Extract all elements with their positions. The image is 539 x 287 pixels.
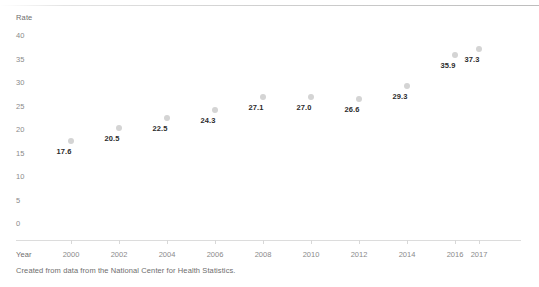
data-point-label: 22.5 xyxy=(153,124,168,133)
y-axis-tick-label: 15 xyxy=(16,149,24,158)
data-point-label: 27.0 xyxy=(297,103,312,112)
data-point-label: 37.3 xyxy=(465,55,480,64)
x-axis-tick-label: 2000 xyxy=(63,250,80,259)
data-point[interactable] xyxy=(476,46,482,52)
x-axis-tick-label: 2002 xyxy=(111,250,128,259)
y-axis-tick-label: 5 xyxy=(16,196,20,205)
x-axis-tick-label: 2012 xyxy=(351,250,368,259)
source-note: Created from data from the National Cent… xyxy=(16,266,236,275)
x-axis-tick-mark xyxy=(263,240,264,244)
x-axis-tick-label: 2010 xyxy=(303,250,320,259)
x-axis-line xyxy=(16,240,521,241)
scatter-chart: Rate Year 4035302520151050 2000200220042… xyxy=(0,0,539,287)
x-axis-tick-mark xyxy=(215,240,216,244)
x-axis-tick-label: 2016 xyxy=(447,250,464,259)
data-point[interactable] xyxy=(116,125,122,131)
y-axis-tick-label: 20 xyxy=(16,125,24,134)
data-point-label: 26.6 xyxy=(345,105,360,114)
data-point[interactable] xyxy=(452,52,458,58)
data-point[interactable] xyxy=(308,94,314,100)
data-point-label: 35.9 xyxy=(441,61,456,70)
y-axis-tick-label: 10 xyxy=(16,172,24,181)
data-point[interactable] xyxy=(212,107,218,113)
y-axis-tick-label: 35 xyxy=(16,55,24,64)
data-point-label: 24.3 xyxy=(201,116,216,125)
x-axis-tick-mark xyxy=(167,240,168,244)
x-axis-tick-mark xyxy=(119,240,120,244)
data-point-label: 29.3 xyxy=(393,92,408,101)
data-point-label: 17.6 xyxy=(57,147,72,156)
x-axis-tick-label: 2014 xyxy=(399,250,416,259)
data-point[interactable] xyxy=(404,83,410,89)
x-axis-tick-mark xyxy=(359,240,360,244)
y-axis-tick-label: 40 xyxy=(16,31,24,40)
x-axis-tick-mark xyxy=(479,240,480,244)
x-axis-tick-label: 2008 xyxy=(255,250,272,259)
data-point[interactable] xyxy=(68,138,74,144)
y-axis-title: Rate xyxy=(16,13,32,22)
data-point[interactable] xyxy=(356,96,362,102)
data-point[interactable] xyxy=(260,94,266,100)
x-axis-tick-mark xyxy=(407,240,408,244)
data-point-label: 20.5 xyxy=(105,134,120,143)
x-axis-tick-label: 2004 xyxy=(159,250,176,259)
data-point-label: 27.1 xyxy=(249,103,264,112)
y-axis-tick-label: 0 xyxy=(16,219,20,228)
x-axis-title: Year xyxy=(16,250,32,259)
x-axis-tick-label: 2006 xyxy=(207,250,224,259)
y-axis-tick-label: 30 xyxy=(16,78,24,87)
data-point[interactable] xyxy=(164,115,170,121)
y-axis-tick-label: 25 xyxy=(16,102,24,111)
x-axis-tick-mark xyxy=(455,240,456,244)
x-axis-tick-mark xyxy=(71,240,72,244)
x-axis-tick-label: 2017 xyxy=(471,250,488,259)
x-axis-tick-mark xyxy=(311,240,312,244)
